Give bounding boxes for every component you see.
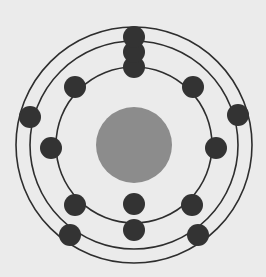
electron-e-2-8 (64, 76, 86, 98)
nucleus-group (96, 107, 172, 183)
nucleus (96, 107, 172, 183)
electron-e-2-6 (64, 194, 86, 216)
atom-diagram (0, 0, 266, 277)
electron-e-2-5 (123, 219, 145, 241)
electron-e-3-5 (19, 106, 41, 128)
electron-e-2-3 (205, 137, 227, 159)
electron-e-3-3 (187, 224, 209, 246)
atom-svg-canvas (0, 0, 266, 277)
electron-e-3-4 (59, 224, 81, 246)
electron-e-2-2 (182, 76, 204, 98)
electron-e-2-4 (181, 194, 203, 216)
electron-e-2-7 (40, 137, 62, 159)
electron-e-1-2 (123, 193, 145, 215)
electron-e-3-2 (227, 104, 249, 126)
electron-e-3-1 (123, 26, 145, 48)
